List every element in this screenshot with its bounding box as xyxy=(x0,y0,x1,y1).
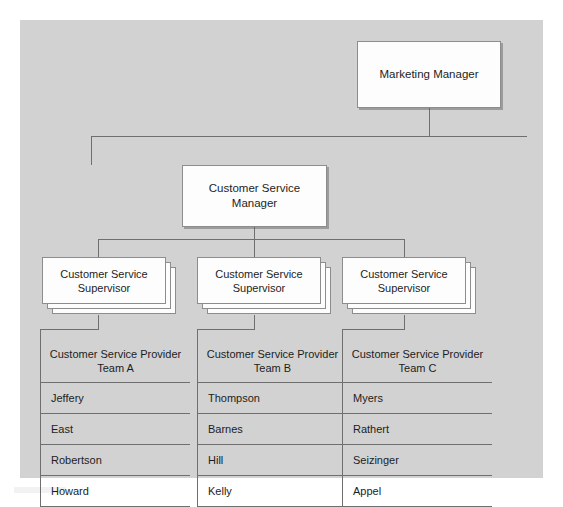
connector-team-a-stem xyxy=(98,315,99,329)
node-supervisor-stack-b[interactable]: Customer Service Supervisor xyxy=(197,257,333,315)
node-marketing-manager-label: Marketing Manager xyxy=(379,67,478,82)
team-c-header-line-2: Team C xyxy=(399,362,437,374)
supervisor-a-label: Customer Service Supervisor xyxy=(60,267,147,295)
connector-supervisor-b-drop xyxy=(254,239,255,257)
cs-manager-line-1: Customer Service xyxy=(209,182,300,194)
connector-supervisor-c-drop xyxy=(404,239,405,257)
node-customer-service-manager[interactable]: Customer Service Manager xyxy=(182,165,327,227)
node-supervisor-stack-c[interactable]: Customer Service Supervisor xyxy=(342,257,478,315)
team-a-member[interactable]: Howard xyxy=(41,476,190,507)
connector-team-b-elbow xyxy=(197,329,255,330)
connector-team-a-elbow xyxy=(40,329,99,330)
supervisor-b-label: Customer Service Supervisor xyxy=(215,267,302,295)
team-b-member[interactable]: Thompson xyxy=(198,383,347,414)
supervisor-a-line-1: Customer Service xyxy=(60,268,147,280)
connector-supervisor-bus xyxy=(98,239,404,240)
node-marketing-manager[interactable]: Marketing Manager xyxy=(357,41,501,108)
connector-team-b-drop xyxy=(197,329,198,341)
team-c-member[interactable]: Rathert xyxy=(343,414,492,445)
team-c-member[interactable]: Myers xyxy=(343,383,492,414)
connector-team-c-stem xyxy=(404,315,405,329)
team-column-c: Customer Service Provider Team C Myers R… xyxy=(342,341,492,507)
node-supervisor-stack-a[interactable]: Customer Service Supervisor xyxy=(42,257,178,315)
team-a-header-line-2: Team A xyxy=(97,362,134,374)
supervisor-stack-card-front[interactable]: Customer Service Supervisor xyxy=(342,257,466,304)
supervisor-c-label: Customer Service Supervisor xyxy=(360,267,447,295)
supervisor-stack-card-front[interactable]: Customer Service Supervisor xyxy=(42,257,166,304)
supervisor-stack-card-front[interactable]: Customer Service Supervisor xyxy=(197,257,321,304)
connector-supervisor-a-drop xyxy=(98,239,99,257)
connector-team-c-drop xyxy=(342,329,343,341)
connector-team-c-elbow xyxy=(342,329,405,330)
team-c-member[interactable]: Seizinger xyxy=(343,445,492,476)
supervisor-c-line-1: Customer Service xyxy=(360,268,447,280)
team-b-member[interactable]: Hill xyxy=(198,445,347,476)
team-a-header: Customer Service Provider Team A xyxy=(41,341,190,383)
supervisor-b-line-2: Supervisor xyxy=(233,282,286,294)
team-b-header: Customer Service Provider Team B xyxy=(198,341,347,383)
team-c-header: Customer Service Provider Team C xyxy=(343,341,492,383)
team-b-member[interactable]: Barnes xyxy=(198,414,347,445)
cs-manager-line-2: Manager xyxy=(232,197,277,209)
connector-team-a-drop xyxy=(40,329,41,341)
node-customer-service-manager-label: Customer Service Manager xyxy=(209,181,300,211)
connector-cs-manager-drop xyxy=(91,136,92,165)
team-c-member[interactable]: Appel xyxy=(343,476,492,507)
team-column-b: Customer Service Provider Team B Thompso… xyxy=(197,341,347,507)
team-b-header-line-2: Team B xyxy=(254,362,291,374)
team-b-header-line-1: Customer Service Provider xyxy=(207,348,338,360)
team-a-header-line-1: Customer Service Provider xyxy=(50,348,181,360)
connector-team-b-stem xyxy=(254,315,255,329)
team-column-a: Customer Service Provider Team A Jeffery… xyxy=(40,341,190,507)
org-chart-canvas: Marketing Manager Customer Service Manag… xyxy=(20,20,543,478)
connector-marketing-stem xyxy=(429,108,430,136)
supervisor-a-line-2: Supervisor xyxy=(78,282,131,294)
team-b-member[interactable]: Kelly xyxy=(198,476,347,507)
team-a-member[interactable]: Robertson xyxy=(41,445,190,476)
connector-marketing-bus xyxy=(91,136,527,137)
team-a-member[interactable]: East xyxy=(41,414,190,445)
team-a-member[interactable]: Jeffery xyxy=(41,383,190,414)
team-c-header-line-1: Customer Service Provider xyxy=(352,348,483,360)
supervisor-b-line-1: Customer Service xyxy=(215,268,302,280)
supervisor-c-line-2: Supervisor xyxy=(378,282,431,294)
